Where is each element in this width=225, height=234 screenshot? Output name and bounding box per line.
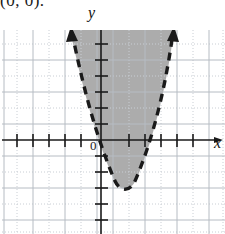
x-axis-label: x <box>214 134 221 152</box>
figure-root: (0, 0). <box>0 0 225 234</box>
graph-svg <box>2 30 225 234</box>
y-axis-label: y <box>88 4 95 22</box>
origin-label: 0 <box>90 138 97 154</box>
caption-text: (0, 0). <box>0 0 45 11</box>
grid-solid <box>2 30 225 234</box>
coordinate-plane <box>2 30 225 234</box>
